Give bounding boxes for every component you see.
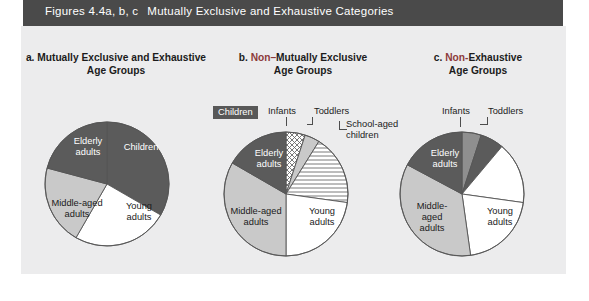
chart-b-title-line1: Mutually Exclusive [276, 52, 367, 63]
chart-a-label-middle-aged-adults: Middle-aged adults [35, 198, 119, 220]
figure-root: Figures 4.4a, b, cMutually Exclusive and… [0, 0, 589, 301]
chart-b-label-elderly-adults: Elderly adults [244, 148, 294, 170]
chart-b-leader-toddlers-h [307, 124, 313, 125]
chart-b-callout-infants: Infants [268, 106, 296, 117]
figure-title: Figures 4.4a, b, cMutually Exclusive and… [45, 5, 394, 17]
chart-b-callout-children: Children [213, 106, 258, 119]
chart-c-title-accent: Non- [445, 52, 468, 63]
chart-c-title-line1: Exhaustive [468, 52, 522, 63]
chart-b: b. Non–Mutually Exclusive Age Groups Chi… [208, 26, 398, 274]
chart-a: a. Mutually Exclusive and Exhaustive Age… [21, 26, 211, 274]
chart-c-leader-infants [460, 117, 461, 127]
chart-a-title-line1: Mutually Exclusive and Exhaustive [37, 52, 206, 63]
figure-number: Figures 4.4a, b, c [45, 5, 138, 17]
chart-b-leader-toddlers-v [312, 117, 313, 124]
chart-b-label-young-adults: Young adults [296, 206, 348, 228]
chart-b-title-line2: Age Groups [274, 65, 332, 76]
chart-c-callout-infants: Infants [442, 106, 470, 117]
chart-a-label-children: Children [111, 142, 171, 153]
chart-a-letter: a. [26, 52, 35, 63]
chart-a-heading: a. Mutually Exclusive and Exhaustive Age… [21, 52, 211, 77]
chart-c-heading: c. Non-Exhaustive Age Groups [390, 52, 566, 77]
chart-c-title-line2: Age Groups [449, 65, 507, 76]
chart-b-callout-toddlers: Toddlers [314, 106, 349, 117]
chart-c-leader-toddlers-h [480, 124, 488, 125]
chart-b-leader-infants [286, 117, 287, 126]
chart-b-letter: b. [239, 52, 248, 63]
chart-c: c. Non-Exhaustive Age Groups Infants Tod… [390, 26, 566, 274]
chart-c-label-elderly-adults: Elderly adults [420, 148, 470, 170]
chart-b-label-middle-aged-adults: Middle-aged adults [214, 206, 298, 228]
figure-titlebar: Figures 4.4a, b, cMutually Exclusive and… [23, 0, 563, 26]
chart-c-callout-toddlers: Toddlers [488, 106, 523, 117]
chart-b-leader-school-v [339, 121, 340, 129]
chart-c-leader-toddlers-v [487, 117, 488, 124]
chart-c-label-young-adults: Young adults [474, 206, 526, 228]
chart-a-label-elderly-adults: Elderly adults [63, 136, 113, 158]
chart-b-title-accent: Non– [251, 52, 276, 63]
chart-b-heading: b. Non–Mutually Exclusive Age Groups [208, 52, 398, 77]
chart-a-title-line2: Age Groups [87, 65, 145, 76]
chart-a-label-young-adults: Young adults [113, 201, 165, 223]
chart-c-label-middle-aged-adults: Middle- aged adults [402, 201, 462, 234]
chart-c-letter: c. [434, 52, 443, 63]
figure-title-text: Mutually Exclusive and Exhaustive Catego… [147, 5, 393, 17]
